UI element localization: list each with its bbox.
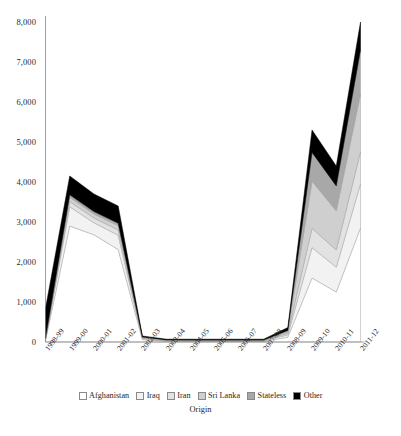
legend-item-stateless[interactable]: Stateless xyxy=(247,391,286,400)
plot-area xyxy=(0,0,401,436)
legend-label: Afghanistan xyxy=(89,391,129,400)
legend-swatch-icon xyxy=(198,392,206,400)
legend-item-afghanistan[interactable]: Afghanistan xyxy=(79,391,130,400)
legend-swatch-icon xyxy=(247,392,255,400)
legend-item-sri-lanka[interactable]: Sri Lanka xyxy=(198,391,241,400)
legend-item-iran[interactable]: Iran xyxy=(167,391,191,400)
chart-legend: AfghanistanIraqIranSri LankaStatelessOth… xyxy=(0,391,401,400)
legend-swatch-icon xyxy=(79,392,87,400)
legend-item-other[interactable]: Other xyxy=(293,391,322,400)
legend-swatch-icon xyxy=(136,392,144,400)
legend-label: Other xyxy=(304,391,323,400)
legend-label: Iran xyxy=(177,391,190,400)
legend-label: Iraq xyxy=(147,391,160,400)
x-axis-title: Origin xyxy=(0,405,401,414)
stacked-area-chart: 01,0002,0003,0004,0005,0006,0007,0008,00… xyxy=(0,0,401,436)
legend-swatch-icon xyxy=(167,392,175,400)
legend-label: Sri Lanka xyxy=(208,391,240,400)
legend-swatch-icon xyxy=(293,392,301,400)
legend-item-iraq[interactable]: Iraq xyxy=(136,391,160,400)
legend-label: Stateless xyxy=(258,391,287,400)
